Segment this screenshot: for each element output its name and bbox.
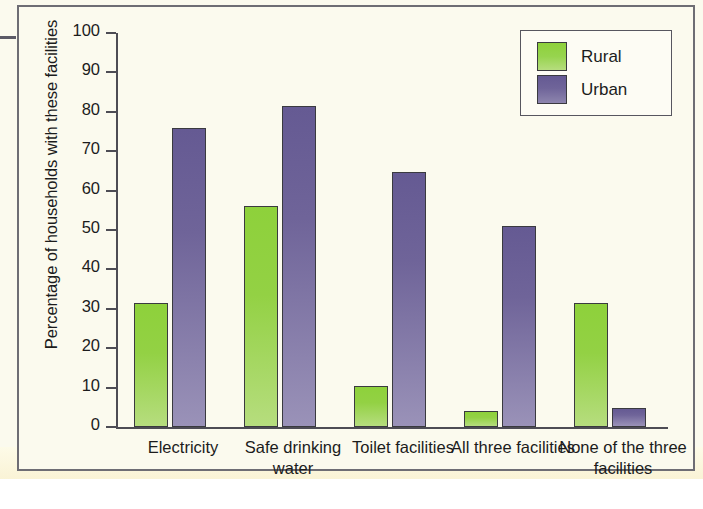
y-axis-tick: 50 (106, 229, 116, 231)
y-axis-tick: 20 (106, 347, 116, 349)
y-axis-tick-label: 20 (60, 336, 100, 355)
bar-urban (172, 128, 206, 427)
y-axis-tick: 10 (106, 387, 116, 389)
y-axis-tick-label: 30 (60, 297, 100, 316)
bar-group (348, 33, 458, 427)
bar-group (128, 33, 238, 427)
bar-rural (244, 206, 278, 427)
bar-rural (574, 303, 608, 427)
legend-item-urban: Urban (521, 73, 671, 106)
bar-urban (612, 408, 646, 427)
legend-item-rural: Rural (521, 40, 671, 73)
y-axis-tick: 30 (106, 308, 116, 310)
chart-legend: Rural Urban (520, 30, 672, 116)
y-axis-tick: 70 (106, 150, 116, 152)
y-axis-tick: 80 (106, 111, 116, 113)
y-axis-title: Percentage of households with these faci… (42, 0, 61, 375)
bar-rural (464, 411, 498, 427)
adjacent-figure-tick-mark (0, 36, 16, 39)
y-axis-tick: 0 (106, 426, 116, 428)
y-axis-tick-label: 60 (60, 179, 100, 198)
bar-rural (354, 386, 388, 427)
bar-group (238, 33, 348, 427)
page-bottom-white-strip (0, 479, 703, 509)
bar-rural (134, 303, 168, 427)
y-axis-tick-label: 90 (60, 60, 100, 79)
y-axis-tick-label: 10 (60, 376, 100, 395)
legend-swatch-rural-icon (537, 42, 567, 71)
bar-chart-figure: Percentage of households with these faci… (17, 5, 695, 471)
y-axis-tick: 90 (106, 71, 116, 73)
legend-label-urban: Urban (581, 80, 627, 100)
y-axis-tick-label: 0 (60, 415, 100, 434)
scanned-page: Percentage of households with these faci… (0, 0, 703, 509)
y-axis-tick-label: 70 (60, 139, 100, 158)
y-axis-tick: 60 (106, 190, 116, 192)
bar-urban (392, 172, 426, 427)
bar-urban (502, 226, 536, 427)
y-axis-tick-label: 50 (60, 218, 100, 237)
y-axis-tick: 40 (106, 268, 116, 270)
y-axis-tick-label: 80 (60, 100, 100, 119)
bar-urban (282, 106, 316, 427)
y-axis-line (116, 33, 118, 429)
x-axis-label: None of the three facilities (557, 437, 689, 479)
legend-swatch-urban-icon (537, 75, 567, 104)
y-axis-tick: 100 (106, 32, 116, 34)
y-axis-tick-label: 100 (60, 21, 100, 40)
y-axis-tick-label: 40 (60, 257, 100, 276)
legend-label-rural: Rural (581, 47, 622, 67)
x-axis-line (116, 427, 668, 429)
